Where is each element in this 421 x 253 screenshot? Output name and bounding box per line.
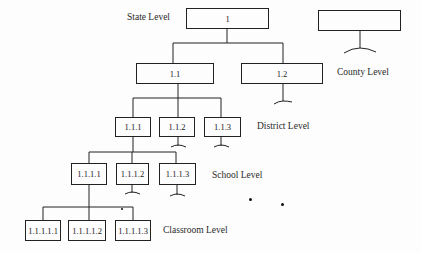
node-1-1-1-1: 1.1.1.1 [71, 163, 107, 185]
school-level-label: School Level [212, 170, 262, 180]
state-level-label: State Level [127, 12, 170, 22]
scan-speck [281, 203, 284, 206]
node-1-2: 1.2 [241, 63, 323, 84]
node-1-1-1: 1.1.1 [115, 117, 151, 137]
classroom-level-label: Classroom Level [163, 225, 228, 235]
node-1-1-1-1-3: 1.1.1.1.3 [115, 220, 151, 241]
node-1-1-1-3: 1.1.1.3 [159, 163, 196, 185]
scan-speck [249, 198, 252, 201]
node-other-state [318, 10, 401, 31]
district-level-label: District Level [257, 121, 310, 131]
county-level-label: County Level [337, 67, 389, 77]
node-1-1-1-2: 1.1.1.2 [116, 163, 149, 185]
node-1-1: 1.1 [136, 63, 214, 84]
node-1-1-3: 1.1.3 [204, 117, 241, 137]
node-1-1-2: 1.1.2 [159, 117, 195, 137]
scan-speck [121, 208, 123, 210]
node-1: 1 [186, 8, 269, 29]
node-1-1-1-1-1: 1.1.1.1.1 [25, 220, 61, 241]
node-1-1-1-1-2: 1.1.1.1.2 [68, 220, 106, 241]
